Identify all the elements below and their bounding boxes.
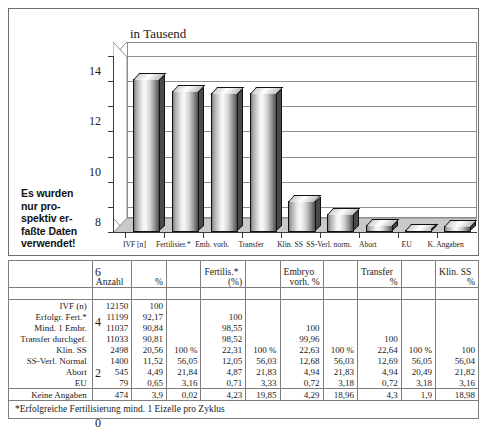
table-header-cell — [401, 261, 435, 288]
table-cell — [201, 300, 246, 312]
table-cell — [92, 288, 131, 300]
table-cell: 12,69 — [357, 355, 401, 366]
table-cell: 2498 — [92, 344, 131, 355]
table-cell — [246, 288, 280, 300]
table-header-cell — [9, 261, 93, 288]
x-tick — [164, 232, 165, 238]
table-cell — [323, 300, 357, 312]
table-cell: 12,68 — [280, 355, 323, 366]
x-tick-label: K. Angaben — [427, 241, 463, 249]
x-tick-label: Klin. SS — [277, 241, 303, 249]
bar-side-face — [198, 87, 204, 231]
table-cell: 3,9 — [132, 389, 167, 401]
x-tick — [359, 232, 360, 238]
table-cell — [246, 333, 280, 344]
table-header-cell: Fertilis.*(%) — [201, 261, 246, 288]
table-cell: 22,63 — [280, 344, 323, 355]
y-tick-label: 14 — [89, 65, 101, 77]
table-cell: 56,03 — [246, 355, 280, 366]
table-cell — [9, 288, 93, 300]
table-row-label: Abort — [9, 366, 93, 377]
table-header-row: Anzahl% Fertilis.*(%) Embryovorh. % Tran… — [9, 261, 479, 288]
bar — [133, 79, 160, 232]
x-axis — [113, 232, 477, 233]
table-row-label: Keine Angaben — [9, 389, 93, 401]
table-spacer-row — [9, 288, 479, 300]
table-cell: 4,94 — [357, 366, 401, 377]
table-cell: 56,03 — [323, 355, 357, 366]
table-row-label: Mind. 1 Embr. — [9, 322, 93, 333]
table-cell — [167, 311, 201, 322]
table-cell: 22,31 — [201, 344, 246, 355]
table-row: Abort5454,4921,844,8721,834,9421,834,942… — [9, 366, 479, 377]
table-cell: 3,16 — [436, 377, 479, 389]
y-tick-label: 12 — [89, 115, 101, 127]
bar-side-face — [315, 196, 321, 231]
y-tick: 2 — [108, 207, 114, 208]
table-header-cell: Anzahl — [92, 261, 131, 288]
x-tick-label: Transfer — [238, 241, 263, 249]
side-note-line: nur pro- — [21, 200, 107, 213]
page-root: in Tausend Es wurden nur pro- spektiv er… — [0, 0, 487, 428]
x-tick-label: IVF [n] — [123, 241, 146, 249]
table-cell: 98,52 — [201, 333, 246, 344]
x-tick — [398, 232, 399, 238]
x-tick-label: Fertilisier.* — [156, 241, 191, 249]
table-row: Keine Angaben4743,90,024,2319,854,2918,9… — [9, 389, 479, 401]
table-cell — [201, 288, 246, 300]
table-cell — [167, 288, 201, 300]
x-tick-label: EU — [402, 241, 412, 249]
bar-side-face — [237, 89, 243, 231]
table-row-label: Erfolgr. Fert.* — [9, 311, 93, 322]
table-cell: 90,84 — [132, 322, 167, 333]
table-cell: 0,72 — [357, 377, 401, 389]
bottom-artifact — [60, 420, 260, 426]
side-note-line: verwendet! — [21, 237, 107, 250]
y-tick: 4 — [108, 182, 114, 183]
data-table: Anzahl% Fertilis.*(%) Embryovorh. % Tran… — [8, 260, 479, 401]
chart-panel: in Tausend Es wurden nur pro- spektiv er… — [8, 8, 479, 256]
table-footnote: *Erfolgreiche Fertilisierung mind. 1 Eiz… — [8, 401, 479, 419]
bar — [444, 226, 471, 232]
table-cell: 11033 — [92, 333, 131, 344]
x-tick — [320, 232, 321, 238]
table-cell — [436, 288, 479, 300]
y-tick: 6 — [108, 157, 114, 158]
table-cell: 3,16 — [167, 377, 201, 389]
y-axis — [113, 56, 114, 232]
plot-left-face — [113, 42, 128, 232]
chart-title: in Tausend — [130, 26, 186, 42]
table-row-label: Transfer durchgef. — [9, 333, 93, 344]
x-tick-label: Emb. vorh. — [195, 241, 229, 249]
table-cell: 3,18 — [323, 377, 357, 389]
table-cell — [132, 288, 167, 300]
table-cell — [401, 322, 435, 333]
table-cell: 20,49 — [401, 366, 435, 377]
y-tick-label: 8 — [95, 216, 101, 228]
bar — [288, 201, 315, 232]
table-cell: 90,81 — [132, 333, 167, 344]
table-cell — [280, 311, 323, 322]
table-row: Klin. SS249820,56100 %22,31100 %22,63100… — [9, 344, 479, 355]
table-row: SS-Verl. Normal140011,5256,0512,0556,031… — [9, 355, 479, 366]
bar — [211, 93, 238, 232]
bar — [405, 230, 432, 232]
table-cell: 18,96 — [323, 389, 357, 401]
table-cell: 18,98 — [436, 389, 479, 401]
bar — [250, 93, 277, 232]
table-cell: 3,18 — [401, 377, 435, 389]
table-cell — [323, 288, 357, 300]
table-header-cell: Embryovorh. % — [280, 261, 323, 288]
table-cell — [401, 300, 435, 312]
table-cell — [401, 333, 435, 344]
table-cell: 4,87 — [201, 366, 246, 377]
y-tick: 12 — [108, 81, 114, 82]
table-cell: 92,17 — [132, 311, 167, 322]
table-cell: 100 % — [401, 344, 435, 355]
table-cell — [280, 288, 323, 300]
table-cell: 4,29 — [280, 389, 323, 401]
table-row-label: SS-Verl. Normal — [9, 355, 93, 366]
table-row: Mind. 1 Embr.1103790,84 98,55 100 — [9, 322, 479, 333]
table-cell: 100 — [357, 333, 401, 344]
table-cell — [323, 311, 357, 322]
